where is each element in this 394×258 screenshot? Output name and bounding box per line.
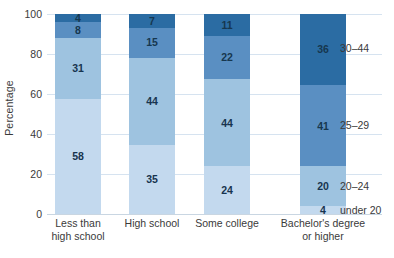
y-tick-label: 20: [12, 168, 42, 180]
bar-segment: 22: [204, 36, 250, 80]
legend-label-25–29: 25–29: [340, 119, 369, 131]
x-axis-label-line: Some college: [172, 217, 282, 230]
bar-segment: 11: [204, 14, 250, 36]
y-tick-label: 100: [12, 8, 42, 20]
segment-value: 22: [221, 52, 233, 63]
bar-segment: 44: [204, 79, 250, 166]
bar-segment: 31: [55, 38, 101, 99]
x-axis-label: Bachelor's degreeor higher: [268, 217, 378, 243]
bar-segment: 24: [204, 166, 250, 214]
segment-value: 36: [317, 44, 329, 55]
segment-value: 44: [146, 96, 158, 107]
bar-segment: 4: [55, 14, 101, 22]
y-tick-label: 40: [12, 128, 42, 140]
legend-label-under-20: under 20: [340, 204, 381, 216]
legend-label-20–24: 20–24: [340, 180, 369, 192]
y-tick-label: 60: [12, 88, 42, 100]
segment-value: 31: [72, 63, 84, 74]
segment-value: 11: [221, 20, 232, 31]
y-axis-title: Percentage: [2, 0, 16, 215]
bar-1: 583184: [55, 14, 101, 214]
segment-value: 7: [149, 16, 155, 27]
segment-value: 35: [146, 174, 158, 185]
y-tick-label: 80: [12, 48, 42, 60]
stacked-bar-chart: Percentage 020406080100 5831843544157244…: [0, 0, 394, 258]
bar-segment: 35: [129, 145, 175, 214]
x-axis-label-line: high school: [23, 230, 133, 243]
segment-value: 41: [317, 121, 329, 132]
segment-value: 58: [72, 151, 84, 162]
plot-area: 5831843544157244422114204136: [47, 14, 382, 214]
segment-value: 15: [146, 37, 158, 48]
legend-label-30–44: 30–44: [340, 42, 369, 54]
bar-segment: 7: [129, 14, 175, 28]
bar-3: 24442211: [204, 14, 250, 214]
bar-segment: 15: [129, 28, 175, 58]
bar-segment: 58: [55, 99, 101, 214]
segment-value: 44: [221, 118, 233, 129]
bar-segment: 8: [55, 22, 101, 38]
bar-2: 3544157: [129, 14, 175, 214]
segment-value: 8: [75, 25, 81, 36]
x-axis-label-line: Bachelor's degree: [268, 217, 378, 230]
segment-value: 24: [221, 185, 233, 196]
x-axis-label-line: or higher: [268, 230, 378, 243]
x-axis-line: [47, 214, 382, 215]
bar-segment: 44: [129, 58, 175, 145]
segment-value: 20: [317, 181, 329, 192]
x-axis-label: Some college: [172, 217, 282, 230]
